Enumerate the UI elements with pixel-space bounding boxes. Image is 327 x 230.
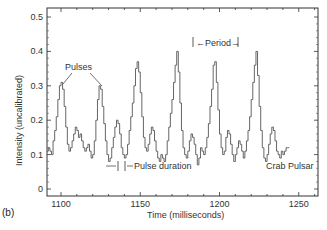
period-arrow-right-icon: → [231, 38, 240, 48]
y-tick-label: 0.5 [30, 12, 43, 22]
y-tick-label: 0.4 [30, 46, 43, 56]
y-tick-label: 0.2 [30, 115, 43, 125]
pulses-arrow-right [90, 73, 102, 86]
pulses-annotation: Pulses [65, 62, 93, 72]
x-axis-ticks: 1100115012001250 [51, 8, 314, 209]
y-tick-label: 0 [38, 184, 43, 194]
x-axis-label: Time (milliseconds) [147, 210, 224, 220]
x-tick-label: 1200 [209, 199, 229, 209]
x-tick-label: 1250 [289, 199, 309, 209]
pulse-duration-annotation: Pulse duration [134, 161, 192, 171]
pulses-arrow-left [63, 73, 72, 84]
y-tick-label: 0.3 [30, 81, 43, 91]
y-axis-label: Intensity (uncalibrated) [14, 75, 24, 166]
panel-label: (b) [2, 207, 14, 218]
x-tick-label: 1100 [51, 199, 70, 209]
period-annotation: ←Period→ [196, 38, 240, 48]
pulsar-chart: 00.10.20.30.40.5 1100115012001250 Pulses… [0, 0, 327, 230]
x-tick-label: 1150 [131, 199, 150, 209]
period-label: Period [205, 38, 231, 48]
period-arrow-left-icon: ← [196, 38, 205, 48]
y-tick-label: 0.1 [30, 150, 43, 160]
source-label: Crab Pulsar [266, 161, 314, 171]
